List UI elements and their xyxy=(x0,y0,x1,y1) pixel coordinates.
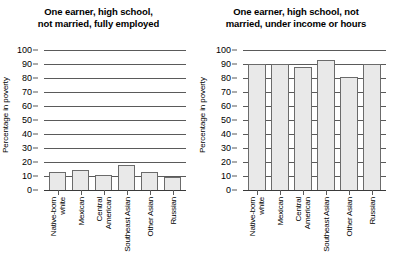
y-tick-label-20: 20 xyxy=(22,158,32,167)
chart-title-right-line-2: married, under income or hours xyxy=(205,18,387,30)
x-tickmark xyxy=(58,190,59,195)
y-tick-label-40: 40 xyxy=(22,130,32,139)
x-tick-label-mexican: Mexican xyxy=(276,197,285,275)
bar-russian xyxy=(164,177,182,190)
x-tick-label-line-1: Russian xyxy=(368,197,377,275)
y-tickmark-70 xyxy=(33,92,38,93)
x-axis-cell: Russian xyxy=(161,190,184,276)
x-tickmark xyxy=(150,190,151,195)
x-axis-cell: CentralAmerican xyxy=(291,190,314,276)
bar-other-asian xyxy=(141,172,159,190)
x-tickmark xyxy=(349,190,350,195)
y-tick-label-10: 10 xyxy=(22,172,32,181)
x-tick-label-line-2: white xyxy=(257,197,266,275)
x-tick-label-line-2: American xyxy=(303,197,312,275)
x-tick-label-line-1: Southeast Asian xyxy=(123,197,132,275)
y-tickmark-60 xyxy=(232,106,237,107)
y-tick-label-70: 70 xyxy=(221,88,231,97)
y-tickmark-30 xyxy=(33,148,38,149)
y-tick-label-20: 20 xyxy=(221,158,231,167)
bar-cell xyxy=(161,50,184,190)
bar-russian xyxy=(363,64,381,190)
y-tickmark-50 xyxy=(33,120,38,121)
y-tick-label-70: 70 xyxy=(22,88,32,97)
x-tick-label-central-american: CentralAmerican xyxy=(294,197,312,275)
chart-title-right: One earner, high school, not married, un… xyxy=(197,6,395,30)
bar-other-asian xyxy=(340,77,358,190)
x-tick-label-line-1: Other Asian xyxy=(146,197,155,275)
x-tick-label-other-asian: Other Asian xyxy=(146,197,155,275)
plot-area-right xyxy=(243,50,386,190)
x-tick-label-central-american: CentralAmerican xyxy=(95,197,113,275)
y-tickmark-60 xyxy=(33,106,38,107)
x-axis-cell: Mexican xyxy=(69,190,92,276)
y-tickmark-10 xyxy=(232,176,237,177)
bar-cell xyxy=(338,50,361,190)
x-axis-cell: Southeast Asian xyxy=(315,190,338,276)
y-tickmark-10 xyxy=(33,176,38,177)
x-tick-label-line-2: American xyxy=(104,197,113,275)
bar-cell xyxy=(69,50,92,190)
x-tick-label-line-1: Native-born xyxy=(248,197,257,275)
bar-series-right xyxy=(243,50,386,190)
y-tick-label-80: 80 xyxy=(221,74,231,83)
x-axis-cell: Native-bornwhite xyxy=(245,190,268,276)
x-tickmark xyxy=(257,190,258,195)
bar-cell xyxy=(268,50,291,190)
y-tick-label-60: 60 xyxy=(221,102,231,111)
y-tickmark-50 xyxy=(232,120,237,121)
x-tick-label-native-born-white: Native-bornwhite xyxy=(49,197,67,275)
y-tickmark-90 xyxy=(33,64,38,65)
y-tickmark-40 xyxy=(232,134,237,135)
y-axis-ticks-right: 0102030405060708090100 xyxy=(197,50,239,190)
bar-southeast-asian xyxy=(317,60,335,190)
x-tickmark xyxy=(104,190,105,195)
bar-cell xyxy=(361,50,384,190)
y-tickmark-40 xyxy=(33,134,38,135)
x-tickmark xyxy=(81,190,82,195)
x-tick-label-line-1: Other Asian xyxy=(345,197,354,275)
y-tickmark-100 xyxy=(33,50,38,51)
x-tickmark xyxy=(173,190,174,195)
x-axis-cell: Other Asian xyxy=(138,190,161,276)
y-tick-label-60: 60 xyxy=(22,102,32,111)
x-axis-cell: Russian xyxy=(361,190,384,276)
figure-two-bar-charts: One earner, high school, not married, fu… xyxy=(0,0,395,277)
x-tick-label-southeast-asian: Southeast Asian xyxy=(123,197,132,275)
x-axis-cell: Southeast Asian xyxy=(115,190,138,276)
y-tickmark-20 xyxy=(33,162,38,163)
x-tickmark xyxy=(326,190,327,195)
y-tickmark-20 xyxy=(232,162,237,163)
bar-cell xyxy=(138,50,161,190)
chart-title-left-line-1: One earner, high school, xyxy=(8,6,189,18)
bar-cell xyxy=(245,50,268,190)
y-tick-label-10: 10 xyxy=(221,172,231,181)
x-tickmark xyxy=(280,190,281,195)
y-tickmark-70 xyxy=(232,92,237,93)
y-tickmark-30 xyxy=(232,148,237,149)
y-tick-label-100: 100 xyxy=(216,46,231,55)
y-tick-label-50: 50 xyxy=(22,116,32,125)
x-tick-label-line-1: Southeast Asian xyxy=(322,197,331,275)
chart-title-right-line-1: One earner, high school, not xyxy=(205,6,387,18)
x-tick-label-southeast-asian: Southeast Asian xyxy=(322,197,331,275)
chart-panel-under-income-or-hours: One earner, high school, not married, un… xyxy=(197,0,395,277)
x-tick-label-russian: Russian xyxy=(368,197,377,275)
y-tick-label-0: 0 xyxy=(226,186,231,195)
plot-area-left xyxy=(44,50,186,190)
y-tick-label-30: 30 xyxy=(22,144,32,153)
y-tick-label-30: 30 xyxy=(221,144,231,153)
x-axis-cell: Mexican xyxy=(268,190,291,276)
x-tick-label-line-1: Central xyxy=(95,197,104,275)
x-tick-label-line-1: Mexican xyxy=(77,197,86,275)
y-tick-label-50: 50 xyxy=(221,116,231,125)
bar-native-born-white xyxy=(49,172,67,190)
x-tickmark xyxy=(127,190,128,195)
y-tick-label-80: 80 xyxy=(22,74,32,83)
y-tick-label-40: 40 xyxy=(221,130,231,139)
bar-cell xyxy=(92,50,115,190)
x-tick-label-native-born-white: Native-bornwhite xyxy=(248,197,266,275)
x-axis-cell: Other Asian xyxy=(338,190,361,276)
x-tick-label-line-1: Native-born xyxy=(49,197,58,275)
bar-central-american xyxy=(95,175,113,190)
